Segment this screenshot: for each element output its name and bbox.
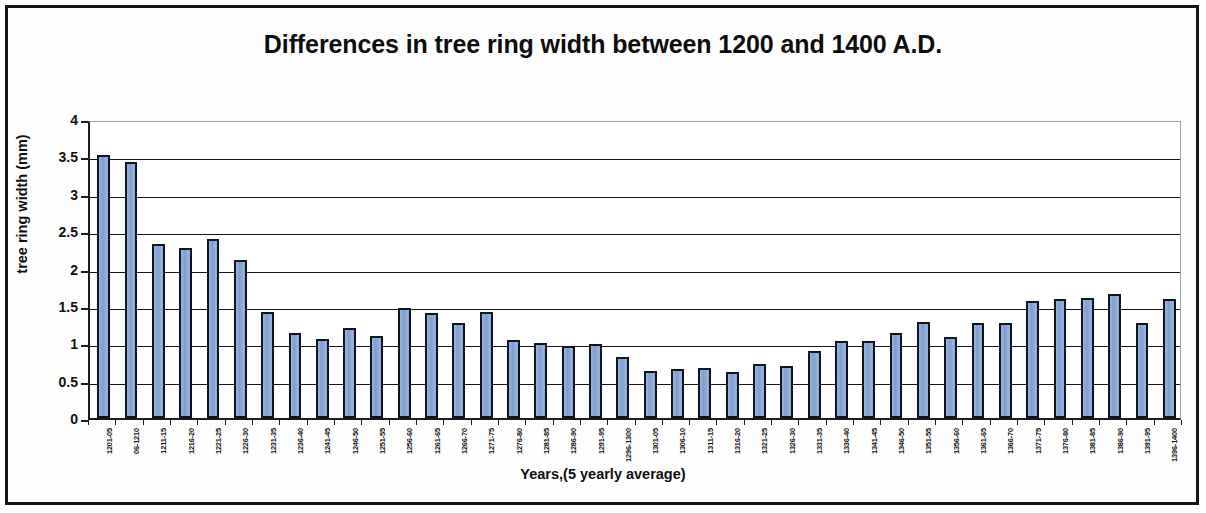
- bar: [1136, 323, 1149, 418]
- x-axis-label: 1366-70: [1006, 428, 1015, 454]
- x-axis-tick: [908, 420, 909, 425]
- plot-area: [88, 121, 1181, 420]
- x-axis-label: 1221-25: [214, 428, 223, 454]
- x-axis-tick: [443, 420, 444, 425]
- bar: [1081, 298, 1094, 418]
- bar: [152, 244, 165, 418]
- x-axis-label: 1341-45: [870, 428, 879, 454]
- bar: [972, 323, 985, 418]
- x-axis-label: 06-1210: [132, 428, 141, 454]
- x-axis-tick: [1154, 420, 1155, 425]
- x-axis-label: 1356-60: [952, 428, 961, 454]
- bar: [835, 341, 848, 418]
- y-axis-tick: [81, 383, 88, 385]
- bar: [97, 155, 110, 418]
- bar: [1163, 299, 1176, 418]
- bar: [452, 323, 465, 418]
- x-axis-tick: [389, 420, 390, 425]
- x-axis-label: 1381-85: [1088, 428, 1097, 454]
- bar: [753, 364, 766, 418]
- x-axis-label: 1276-80: [515, 428, 524, 454]
- x-axis-label: 1246-50: [351, 428, 360, 454]
- x-axis-label: 1256-60: [405, 428, 414, 454]
- x-axis-tick: [1072, 420, 1073, 425]
- bar: [644, 371, 657, 418]
- x-axis-tick: [361, 420, 362, 425]
- x-axis-label: 1231-35: [269, 428, 278, 454]
- x-axis-tick: [1044, 420, 1045, 425]
- x-axis-tick: [334, 420, 335, 425]
- bar: [125, 162, 138, 418]
- x-axis-label: 1391-95: [1143, 428, 1152, 454]
- x-axis-label: 1386-90: [1116, 428, 1125, 454]
- x-axis-tick: [744, 420, 745, 425]
- y-axis-label: 2: [70, 262, 78, 278]
- x-axis-label: 1291-95: [597, 428, 606, 454]
- x-axis-tick: [197, 420, 198, 425]
- x-axis-label: 1311-15: [706, 428, 715, 454]
- x-axis-label: 1251-55: [378, 428, 387, 454]
- bar: [316, 339, 329, 418]
- bar: [890, 333, 903, 418]
- x-axis-label: 1376-80: [1061, 428, 1070, 454]
- x-axis-label: 1236-40: [296, 428, 305, 454]
- x-axis-label: 1301-05: [651, 428, 660, 454]
- y-axis-label: 1: [70, 336, 78, 352]
- x-axis-label: 1266-70: [460, 428, 469, 454]
- x-axis-tick: [1126, 420, 1127, 425]
- x-axis-tick: [252, 420, 253, 425]
- x-axis-tick: [498, 420, 499, 425]
- bar: [1026, 301, 1039, 418]
- x-axis-label: 1286-90: [569, 428, 578, 454]
- x-axis-label: 1281-85: [542, 428, 551, 454]
- bar: [425, 313, 438, 418]
- bar: [562, 346, 575, 418]
- x-axis-tick: [716, 420, 717, 425]
- x-axis-tick: [225, 420, 226, 425]
- x-axis-tick: [307, 420, 308, 425]
- x-axis-label: 1211-15: [159, 428, 168, 454]
- y-axis-tick: [81, 158, 88, 160]
- x-axis-label: 1316-20: [733, 428, 742, 454]
- x-axis-tick: [853, 420, 854, 425]
- bar: [1108, 294, 1121, 418]
- x-axis-tick: [170, 420, 171, 425]
- x-axis-tick: [279, 420, 280, 425]
- x-axis-tick: [771, 420, 772, 425]
- y-axis-tick: [81, 233, 88, 235]
- x-axis-label: 1201-05: [105, 428, 114, 454]
- x-axis-tick: [935, 420, 936, 425]
- x-axis-tick: [1099, 420, 1100, 425]
- bar: [944, 337, 957, 418]
- x-axis-tick: [88, 420, 89, 425]
- x-axis-label: 1351-55: [924, 428, 933, 454]
- y-axis-label: 4: [70, 112, 78, 128]
- bar: [507, 340, 520, 418]
- bar: [480, 312, 493, 418]
- x-axis-label: 1296-1300: [624, 428, 633, 462]
- x-axis-label: 1326-30: [788, 428, 797, 454]
- x-axis-label: 1361-65: [979, 428, 988, 454]
- y-axis-tick: [81, 345, 88, 347]
- x-axis-label: 1306-10: [678, 428, 687, 454]
- x-axis-tick: [471, 420, 472, 425]
- x-axis-tick: [990, 420, 991, 425]
- x-axis-label: 1346-50: [897, 428, 906, 454]
- x-axis-tick: [962, 420, 963, 425]
- y-axis-label: 1.5: [59, 299, 78, 315]
- x-axis-label: 1216-20: [187, 428, 196, 454]
- bar: [370, 336, 383, 418]
- bar: [698, 368, 711, 418]
- y-axis-tick: [81, 308, 88, 310]
- bar: [289, 333, 302, 418]
- x-axis-label: 1321-25: [760, 428, 769, 454]
- y-axis-tick: [81, 420, 88, 422]
- x-axis-label: 1331-35: [815, 428, 824, 454]
- y-axis-label: 0.5: [59, 374, 78, 390]
- chart-title: Differences in tree ring width between 1…: [0, 30, 1206, 59]
- y-axis-tick: [81, 121, 88, 123]
- bar: [671, 369, 684, 418]
- y-axis-label: 2.5: [59, 224, 78, 240]
- y-axis-label: 3.5: [59, 149, 78, 165]
- x-axis-label: 1261-65: [433, 428, 442, 454]
